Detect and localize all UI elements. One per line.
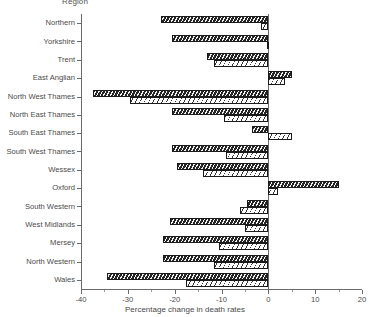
bar bbox=[268, 133, 291, 140]
y-tick bbox=[77, 206, 81, 207]
x-tick-minor bbox=[339, 290, 340, 292]
x-tick bbox=[362, 290, 363, 294]
x-tick bbox=[175, 290, 176, 294]
y-tick bbox=[77, 115, 81, 116]
y-axis-category-label: Trent bbox=[0, 56, 75, 64]
x-tick bbox=[128, 290, 129, 294]
bar bbox=[163, 255, 268, 262]
bar bbox=[268, 71, 291, 78]
x-tick-label: -20 bbox=[160, 295, 190, 304]
y-axis-category-label: Wessex bbox=[0, 166, 75, 174]
y-axis-category-label: Oxford bbox=[0, 184, 75, 192]
bar bbox=[172, 145, 268, 152]
bar bbox=[130, 97, 268, 104]
bar bbox=[161, 16, 269, 23]
y-axis-category-label: West Midlands bbox=[0, 221, 75, 229]
bar-chart: Region NorthernYorkshireTrentEast Anglia… bbox=[0, 0, 370, 317]
x-tick-minor bbox=[292, 290, 293, 292]
y-axis-category-label: South East Thames bbox=[0, 129, 75, 137]
y-axis-title: Region bbox=[62, 0, 182, 6]
y-axis-category-label: Northern bbox=[0, 19, 75, 27]
y-axis-category-label: Wales bbox=[0, 276, 75, 284]
bar bbox=[107, 273, 269, 280]
y-axis-category-label: Yorkshire bbox=[0, 38, 75, 46]
x-tick-minor bbox=[104, 290, 105, 292]
y-tick bbox=[77, 60, 81, 61]
y-axis-category-label: North West Thames bbox=[0, 93, 75, 101]
x-tick bbox=[81, 290, 82, 294]
x-tick bbox=[315, 290, 316, 294]
bar bbox=[252, 126, 268, 133]
y-tick bbox=[77, 78, 81, 79]
y-tick bbox=[77, 262, 81, 263]
x-tick-label: -30 bbox=[113, 295, 143, 304]
bar bbox=[268, 181, 338, 188]
bar bbox=[268, 78, 284, 85]
x-tick-minor bbox=[151, 290, 152, 292]
x-tick-label: 10 bbox=[300, 295, 330, 304]
y-tick bbox=[77, 97, 81, 98]
bar bbox=[170, 218, 268, 225]
bar bbox=[207, 53, 268, 60]
x-tick-label: 20 bbox=[347, 295, 370, 304]
bar bbox=[163, 236, 268, 243]
bar bbox=[268, 188, 277, 195]
y-tick bbox=[77, 170, 81, 171]
x-axis-title: Percentage change in death rates bbox=[0, 305, 370, 314]
y-tick bbox=[77, 188, 81, 189]
x-tick-minor bbox=[198, 290, 199, 292]
bar bbox=[219, 243, 268, 250]
bar bbox=[261, 23, 268, 30]
bar bbox=[240, 207, 268, 214]
y-tick bbox=[77, 225, 81, 226]
bar bbox=[214, 60, 268, 67]
bar bbox=[267, 42, 269, 49]
y-tick bbox=[77, 133, 81, 134]
y-tick bbox=[77, 243, 81, 244]
y-axis-category-label: South Western bbox=[0, 203, 75, 211]
y-axis-category-label: East Anglian bbox=[0, 74, 75, 82]
bar bbox=[177, 163, 268, 170]
bar bbox=[245, 225, 268, 232]
x-tick-label: -10 bbox=[207, 295, 237, 304]
zero-reference-line bbox=[268, 14, 269, 289]
bar bbox=[224, 115, 268, 122]
bar bbox=[172, 35, 268, 42]
x-tick-label: -40 bbox=[66, 295, 96, 304]
y-axis-category-label: South West Thames bbox=[0, 148, 75, 156]
x-tick-label: 0 bbox=[253, 295, 283, 304]
bar bbox=[186, 280, 268, 287]
y-tick bbox=[77, 280, 81, 281]
y-axis-category-label: North Western bbox=[0, 258, 75, 266]
y-axis-line bbox=[81, 14, 82, 289]
bar bbox=[93, 90, 269, 97]
bar bbox=[247, 200, 268, 207]
y-tick bbox=[77, 41, 81, 42]
y-tick bbox=[77, 23, 81, 24]
bar bbox=[172, 108, 268, 115]
x-tick-minor bbox=[245, 290, 246, 292]
bar bbox=[214, 262, 268, 269]
y-tick bbox=[77, 151, 81, 152]
bar bbox=[203, 170, 269, 177]
y-axis-category-label: Mersey bbox=[0, 239, 75, 247]
y-axis-category-label: North East Thames bbox=[0, 111, 75, 119]
bar bbox=[226, 152, 268, 159]
x-tick bbox=[222, 290, 223, 294]
x-tick bbox=[268, 290, 269, 294]
